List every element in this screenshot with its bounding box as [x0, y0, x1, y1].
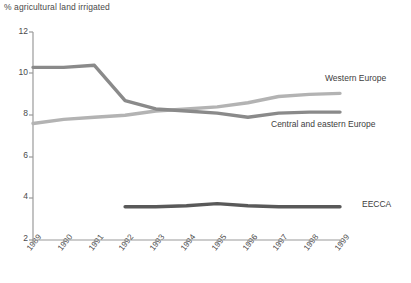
- x-axis-ticks: [33, 240, 340, 244]
- chart-container: % agricultural land irrigated 12 10 8 6 …: [0, 0, 411, 283]
- series-label-western-europe: Western Europe: [325, 73, 386, 83]
- axes-group: [29, 32, 340, 244]
- series-line-eecca: [125, 204, 340, 207]
- series-label-eecca: EECCA: [362, 199, 391, 209]
- series-line-central-and-eastern-europe: [33, 65, 340, 117]
- series-label-central-and-eastern-europe: Central and eastern Europe: [271, 119, 375, 129]
- chart-plot-area: [0, 0, 411, 283]
